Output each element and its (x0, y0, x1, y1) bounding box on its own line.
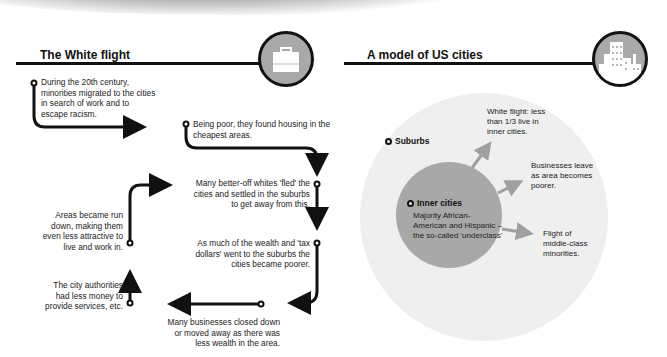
title-rule (344, 62, 594, 65)
city-buildings-icon (592, 31, 648, 87)
panel-title-us-cities: A model of US cities (367, 48, 483, 62)
panel-title-white-flight: The White flight (40, 48, 130, 62)
page-top-shadow (0, 0, 500, 15)
flow-step-1: During the 20th century, minorities migr… (41, 77, 156, 119)
suburbs-label: Suburbs (385, 136, 429, 146)
flow-step-3: Many better-off whites 'fled' the cities… (190, 178, 310, 210)
flow-step-5: Many businesses closed down or moved awa… (160, 317, 280, 349)
flow-step-4: As much of the wealth and 'tax dollars' … (190, 238, 310, 270)
inner-cities-label: Inner cities (407, 198, 462, 208)
outflow-businesses: Businesses leave as area becomes poorer. (531, 161, 603, 191)
inner-cities-description: Majority African-American and Hispanic –… (413, 211, 503, 241)
briefcase-icon (258, 31, 314, 87)
outflow-middle-class: Flight of middle-class minorities. (543, 229, 593, 259)
outflow-white-flight: White flight: less than 1/3 live in inne… (487, 107, 557, 137)
title-rule (16, 62, 260, 65)
flow-step-6: The city authorities had less money to p… (40, 280, 123, 312)
flow-step-2: Being poor, they found housing in the ch… (193, 119, 333, 140)
flow-step-7: Areas became run down, making them even … (40, 210, 123, 252)
bullet-icon (385, 138, 392, 145)
bullet-icon (407, 200, 414, 207)
